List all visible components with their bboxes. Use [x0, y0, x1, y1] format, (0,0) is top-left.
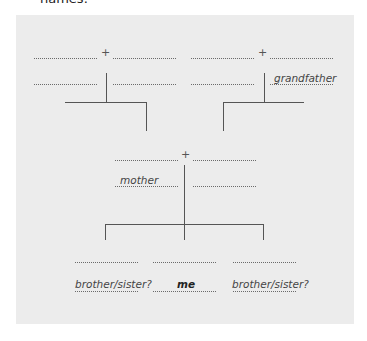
blank-name-field[interactable]	[270, 58, 333, 59]
connector-line	[223, 102, 304, 103]
blank-name-field[interactable]	[34, 58, 97, 59]
connector-line	[263, 224, 264, 240]
connector-line	[146, 102, 147, 131]
mother-label: mother	[120, 174, 158, 186]
grandfather-label: grandfather	[274, 72, 336, 84]
connector-line	[264, 73, 265, 102]
couple-plus-icon: +	[101, 47, 110, 58]
blank-name-field[interactable]	[34, 84, 97, 85]
blank-name-field[interactable]	[113, 84, 176, 85]
blank-name-field[interactable]	[113, 58, 176, 59]
me-label: me	[177, 278, 195, 290]
cut-off-heading: names.	[40, 0, 88, 6]
blank-name-field[interactable]	[75, 291, 138, 292]
couple-plus-icon: +	[258, 47, 267, 58]
connector-line	[184, 165, 185, 240]
blank-name-field[interactable]	[115, 186, 178, 187]
blank-name-field[interactable]	[193, 186, 256, 187]
blank-name-field[interactable]	[191, 58, 254, 59]
blank-name-field[interactable]	[233, 262, 296, 263]
couple-plus-icon: +	[181, 149, 190, 160]
sibling-label: brother/sister?	[75, 278, 152, 290]
blank-name-field[interactable]	[191, 84, 254, 85]
blank-name-field[interactable]	[233, 291, 296, 292]
blank-name-field[interactable]	[193, 160, 256, 161]
blank-name-field[interactable]	[153, 291, 216, 292]
blank-name-field[interactable]	[270, 84, 333, 85]
connector-line	[106, 73, 107, 102]
blank-name-field[interactable]	[75, 262, 138, 263]
blank-name-field[interactable]	[153, 262, 216, 263]
connector-line	[105, 224, 106, 240]
connector-line	[65, 102, 146, 103]
sibling-label: brother/sister?	[232, 278, 309, 290]
connector-line	[223, 102, 224, 131]
connector-line	[105, 224, 263, 225]
blank-name-field[interactable]	[115, 160, 178, 161]
